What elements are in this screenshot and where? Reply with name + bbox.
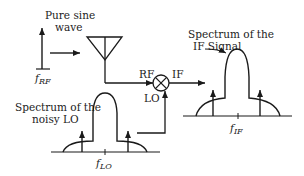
rf-tone-arrow bbox=[36, 28, 50, 69]
if-port-label: IF bbox=[172, 68, 183, 80]
f-if-label: fIF bbox=[229, 122, 243, 136]
lo-spectrum-label-1: Spectrum of the bbox=[15, 101, 101, 113]
if-spectrum bbox=[183, 49, 292, 119]
mixer-diagram: Pure sine wave fRF RF IF LO Spectrum of … bbox=[0, 0, 304, 176]
mixer-icon bbox=[153, 75, 169, 91]
if-spectrum-label-1: Spectrum of the bbox=[188, 28, 274, 40]
lo-spectrum-label-2: noisy LO bbox=[32, 113, 79, 125]
f-rf-label: fRF bbox=[34, 72, 51, 86]
f-lo-label: fLO bbox=[95, 157, 112, 171]
rf-port-label: RF bbox=[139, 68, 154, 80]
pure-sine-label-1: Pure sine bbox=[45, 9, 95, 21]
pure-sine-label-2: wave bbox=[55, 21, 82, 33]
diagram-svg: Pure sine wave fRF RF IF LO Spectrum of … bbox=[0, 0, 304, 176]
lo-port-label: LO bbox=[144, 92, 160, 104]
